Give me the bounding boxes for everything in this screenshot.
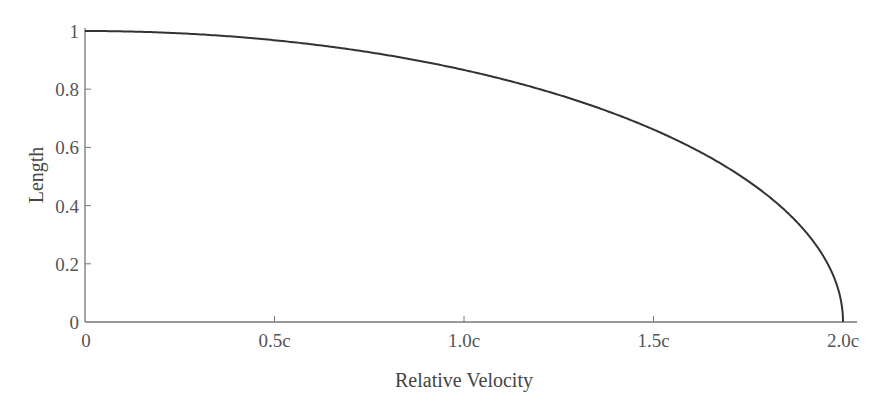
length-curve: [85, 31, 843, 322]
y-tick-label: 0: [70, 312, 80, 333]
x-axis-title: Relative Velocity: [395, 369, 533, 392]
x-tick-label: 0.5c: [258, 330, 290, 351]
y-tick-label: 0.4: [55, 196, 79, 217]
y-tick-label: 0.2: [55, 254, 79, 275]
x-axis-ticks: 00.5c1.0c1.5c2.0c: [81, 316, 859, 351]
y-tick-label: 0.6: [55, 137, 79, 158]
x-tick-label: 1.5c: [637, 330, 669, 351]
x-tick-label: 0: [81, 330, 91, 351]
x-tick-label: 1.0c: [448, 330, 480, 351]
x-tick-label: 2.0c: [827, 330, 859, 351]
y-tick-label: 0.8: [55, 79, 79, 100]
length-contraction-chart: 00.20.40.60.81 00.5c1.0c1.5c2.0c Relativ…: [0, 0, 889, 410]
y-tick-label: 1: [70, 21, 80, 42]
y-axis-title: Length: [25, 147, 48, 204]
